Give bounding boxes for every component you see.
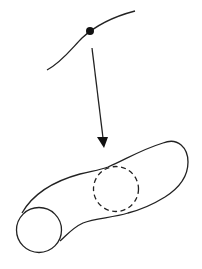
tube-upper-edge xyxy=(22,143,163,213)
diagram-canvas xyxy=(0,0,202,269)
marked-point xyxy=(86,27,94,35)
arrow xyxy=(92,48,103,138)
end-cap-circle xyxy=(17,208,62,253)
tube-far-end xyxy=(163,141,188,197)
tube-lower-edge xyxy=(60,197,165,241)
curve xyxy=(47,11,135,70)
cross-section-circle xyxy=(94,167,139,212)
arrowhead-icon xyxy=(97,137,108,148)
